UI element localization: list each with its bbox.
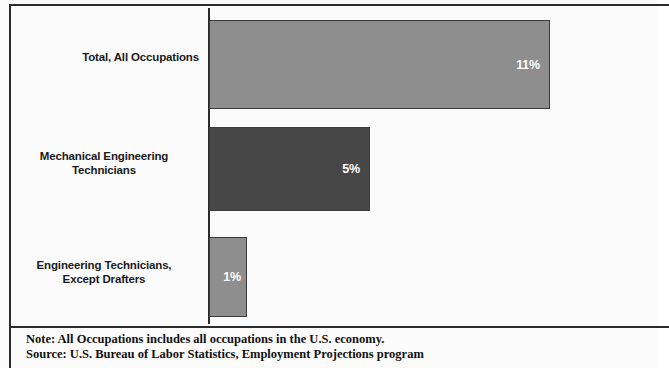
category-label-line-1: Mechanical Engineering — [40, 150, 168, 162]
category-label-line-1: Engineering Technicians, — [37, 259, 172, 271]
bar-engineering-technicians-except-drafters: 1% — [209, 237, 247, 317]
footnote-source: Source: U.S. Bureau of Labor Statistics,… — [26, 347, 636, 362]
bar-value-label-mechanical-engineering-technicians: 5% — [342, 162, 369, 176]
bar-value-label-engineering-technicians-except-drafters: 1% — [223, 270, 246, 284]
bar-total-all-occupations: 11% — [209, 20, 550, 109]
bar-rows: Total, All Occupations 11% Mechanical En… — [9, 4, 658, 326]
bar-value-label-total-all-occupations: 11% — [516, 58, 549, 72]
footnotes: Note: All Occupations includes all occup… — [26, 332, 636, 362]
category-label-line-2: Technicians — [72, 164, 136, 176]
bar-row-engineering-technicians-except-drafters: Engineering Technicians, Except Drafters… — [9, 233, 658, 317]
category-label-mechanical-engineering-technicians: Mechanical Engineering Technicians — [9, 149, 199, 177]
plot-area: Total, All Occupations 11% Mechanical En… — [9, 4, 658, 326]
category-label-line-2: Except Drafters — [63, 273, 146, 285]
footnote-divider — [9, 326, 669, 328]
bar-row-mechanical-engineering-technicians: Mechanical Engineering Technicians 5% — [9, 123, 658, 211]
category-label-line-1: Total, All Occupations — [82, 51, 199, 63]
bar-mechanical-engineering-technicians: 5% — [209, 127, 370, 211]
footnote-note: Note: All Occupations includes all occup… — [26, 332, 636, 347]
category-label-total-all-occupations: Total, All Occupations — [9, 50, 199, 64]
bar-row-total-all-occupations: Total, All Occupations 11% — [9, 16, 658, 109]
category-label-engineering-technicians-except-drafters: Engineering Technicians, Except Drafters — [9, 258, 199, 286]
